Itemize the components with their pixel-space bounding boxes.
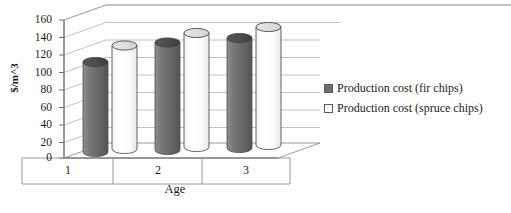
y-tick-40: 40	[24, 119, 52, 129]
y-tick-60: 60	[24, 102, 52, 112]
legend-swatch-dark-icon	[324, 84, 333, 93]
bar-spruce-age-2	[184, 28, 209, 151]
x-tick-1: 1	[48, 163, 88, 178]
chart-legend: Production cost (fir chips) Production c…	[324, 82, 510, 122]
legend-item-fir-chips: Production cost (fir chips)	[324, 82, 510, 95]
y-axis-tick-labels: 160 140 120 100 80 60 40 20 0	[22, 0, 52, 213]
chart-container: $/m^3 160 140 120 100 80 60 40 20 0 1 2 …	[0, 0, 511, 213]
y-tick-20: 20	[24, 137, 52, 147]
y-tick-80: 80	[24, 84, 52, 94]
x-tick-2: 2	[138, 163, 178, 178]
y-tick-120: 120	[24, 49, 52, 59]
y-tick-100: 100	[24, 67, 52, 77]
legend-item-spruce-chips: Production cost (spruce chips)	[324, 102, 510, 115]
legend-label-spruce-chips: Production cost (spruce chips)	[337, 102, 483, 115]
legend-label-fir-chips: Production cost (fir chips)	[337, 82, 463, 95]
x-tick-3: 3	[226, 163, 266, 178]
bar-spruce-age-1	[112, 41, 137, 154]
x-axis-title: Age	[130, 182, 220, 197]
legend-swatch-light-icon	[324, 104, 333, 113]
chart-y-tickmarks	[59, 20, 64, 158]
y-tick-140: 140	[24, 32, 52, 42]
bar-fir-age-3	[227, 33, 252, 152]
bar-fir-age-2	[155, 38, 180, 155]
y-axis-title: $/m^3	[8, 48, 20, 108]
bar-fir-age-1	[83, 57, 108, 156]
y-tick-0: 0	[24, 152, 52, 162]
y-tick-160: 160	[24, 14, 52, 24]
bar-spruce-age-3	[256, 22, 281, 149]
